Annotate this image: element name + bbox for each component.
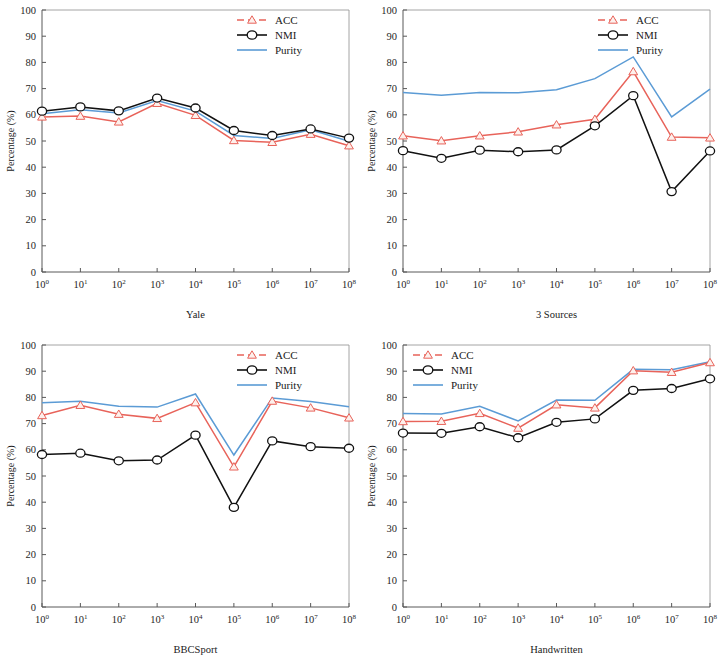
y-tick-label: 10 <box>26 575 37 586</box>
chart-d: 0102030405060708090100100101102103104105… <box>361 335 721 670</box>
marker-nmi <box>552 418 561 426</box>
panel-b: 0102030405060708090100100101102103104105… <box>361 0 721 335</box>
y-tick-label: 0 <box>392 602 397 613</box>
x-tick-label: 106 <box>265 613 280 626</box>
plot-frame <box>403 10 710 272</box>
x-tick-label: 102 <box>473 278 488 291</box>
panel-c: 0102030405060708090100100101102103104105… <box>0 335 360 670</box>
y-tick-label: 30 <box>387 523 398 534</box>
marker-acc <box>229 463 238 470</box>
marker-nmi <box>191 104 200 112</box>
x-tick-label: 106 <box>626 278 641 291</box>
marker-nmi <box>37 451 46 459</box>
marker-nmi <box>475 146 484 154</box>
y-tick-label: 10 <box>26 240 37 251</box>
x-axis-title: BBCSport <box>174 644 218 655</box>
y-tick-label: 100 <box>20 5 36 16</box>
y-tick-label: 90 <box>387 366 398 377</box>
marker-nmi <box>268 437 277 445</box>
chart-c: 0102030405060708090100100101102103104105… <box>0 335 360 670</box>
x-tick-label: 107 <box>304 613 319 626</box>
legend-label-purity: Purity <box>275 379 302 391</box>
x-tick-label: 107 <box>304 278 319 291</box>
y-tick-label: 30 <box>26 523 37 534</box>
y-tick-label: 90 <box>26 366 37 377</box>
y-tick-label: 50 <box>387 136 398 147</box>
y-tick-label: 50 <box>26 136 37 147</box>
marker-nmi <box>437 154 446 162</box>
legend-marker-nmi <box>423 366 433 374</box>
marker-nmi <box>552 146 561 154</box>
y-tick-label: 10 <box>387 240 398 251</box>
marker-nmi <box>667 384 676 392</box>
plot-axes <box>403 10 710 272</box>
x-tick-label: 104 <box>189 278 204 291</box>
marker-nmi <box>229 503 238 511</box>
x-tick-label: 104 <box>189 613 204 626</box>
x-tick-label: 105 <box>588 613 603 626</box>
y-tick-label: 40 <box>26 497 37 508</box>
legend-label-nmi: NMI <box>275 364 297 376</box>
y-tick-label: 40 <box>387 497 398 508</box>
y-tick-label: 30 <box>26 188 37 199</box>
x-tick-label: 108 <box>342 278 357 291</box>
y-tick-label: 70 <box>387 418 398 429</box>
x-tick-label: 100 <box>396 278 411 291</box>
x-tick-label: 101 <box>73 278 88 291</box>
legend-marker-nmi <box>247 31 257 39</box>
y-tick-label: 20 <box>26 549 37 560</box>
marker-acc <box>629 67 638 74</box>
chart-b: 0102030405060708090100100101102103104105… <box>361 0 721 335</box>
marker-nmi <box>306 125 315 133</box>
legend-marker-nmi <box>608 31 618 39</box>
x-tick-label: 106 <box>626 613 641 626</box>
y-tick-label: 100 <box>20 340 36 351</box>
marker-acc <box>475 409 484 416</box>
x-tick-label: 103 <box>511 613 526 626</box>
y-tick-label: 80 <box>387 57 398 68</box>
x-tick-label: 103 <box>150 613 165 626</box>
y-tick-label: 90 <box>387 31 398 42</box>
x-tick-label: 106 <box>265 278 280 291</box>
plot-axes <box>42 10 349 272</box>
series-line-nmi <box>42 435 349 507</box>
marker-nmi <box>76 449 85 457</box>
x-tick-label: 107 <box>665 613 680 626</box>
y-axis-title: Percentage (%) <box>366 445 378 506</box>
marker-nmi <box>229 127 238 135</box>
x-tick-label: 105 <box>227 613 242 626</box>
y-tick-label: 40 <box>387 162 398 173</box>
x-tick-label: 101 <box>434 278 449 291</box>
figure-multi-panel-line-charts: 0102030405060708090100100101102103104105… <box>0 0 721 670</box>
y-tick-label: 90 <box>26 31 37 42</box>
x-tick-label: 103 <box>150 278 165 291</box>
y-tick-label: 0 <box>392 267 397 278</box>
marker-nmi <box>475 423 484 431</box>
marker-nmi <box>705 375 714 383</box>
y-axis-title: Percentage (%) <box>5 110 17 171</box>
y-tick-label: 60 <box>387 109 398 120</box>
series-line-nmi <box>403 96 710 192</box>
x-tick-label: 101 <box>434 613 449 626</box>
y-tick-label: 70 <box>26 418 37 429</box>
panel-d: 0102030405060708090100100101102103104105… <box>361 335 721 670</box>
y-tick-label: 0 <box>31 602 36 613</box>
x-tick-label: 102 <box>112 278 127 291</box>
chart-a: 0102030405060708090100100101102103104105… <box>0 0 360 335</box>
legend-label-nmi: NMI <box>636 29 658 41</box>
plot-frame <box>42 345 349 607</box>
legend-label-purity: Purity <box>275 44 302 56</box>
y-tick-label: 20 <box>26 214 37 225</box>
x-tick-label: 104 <box>550 278 565 291</box>
y-tick-label: 60 <box>26 444 37 455</box>
y-tick-label: 80 <box>26 392 37 403</box>
x-tick-label: 105 <box>588 278 603 291</box>
marker-nmi <box>153 94 162 102</box>
legend-label-purity: Purity <box>636 44 663 56</box>
marker-nmi <box>705 147 714 155</box>
series-line-purity <box>403 362 710 421</box>
plot-frame <box>403 345 710 607</box>
plot-axes <box>403 345 710 607</box>
marker-nmi <box>76 103 85 111</box>
x-tick-label: 107 <box>665 278 680 291</box>
